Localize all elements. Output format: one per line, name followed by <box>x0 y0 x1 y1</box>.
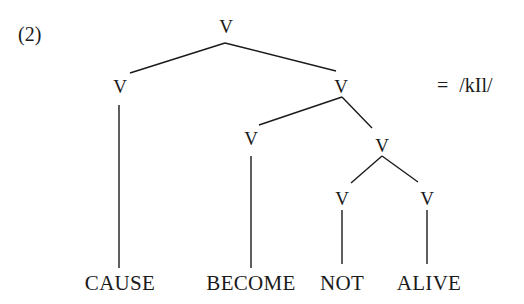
branch-right-left <box>259 97 342 125</box>
branch-root-left <box>130 43 225 73</box>
branch-lower-left <box>351 156 382 183</box>
branch-lower-right <box>382 156 418 182</box>
phonological-form: /kIl/ <box>459 74 492 96</box>
branch-right-right <box>342 97 372 128</box>
equation: = /kIl/ <box>437 75 493 95</box>
branch-root-right <box>225 43 336 71</box>
example-number: (2) <box>18 24 41 44</box>
node-not-v: V <box>335 189 349 208</box>
node-right-v: V <box>334 77 348 96</box>
node-become-v: V <box>244 129 258 148</box>
node-cause-v: V <box>113 77 127 96</box>
node-alive-v: V <box>420 189 434 208</box>
terminal-not: NOT <box>320 273 364 294</box>
equals-sign: = <box>437 74 448 96</box>
terminal-alive: ALIVE <box>397 273 461 294</box>
node-root-v: V <box>219 17 233 36</box>
terminal-cause: CAUSE <box>85 273 155 294</box>
terminal-become: BECOME <box>206 273 295 294</box>
node-lower-v: V <box>375 136 389 155</box>
tree-branches <box>0 0 524 304</box>
